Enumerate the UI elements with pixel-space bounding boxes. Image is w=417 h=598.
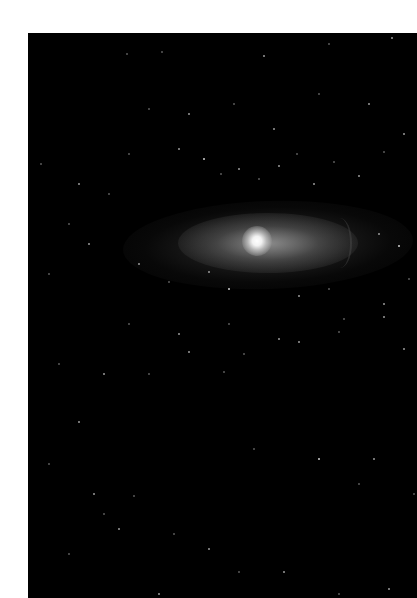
star [328, 288, 330, 290]
star [168, 281, 170, 283]
star [178, 333, 180, 335]
star [48, 463, 50, 465]
star [178, 148, 180, 150]
star [161, 51, 163, 53]
star [233, 103, 235, 105]
star [133, 495, 135, 497]
star [373, 458, 375, 460]
star [118, 528, 120, 530]
star [48, 273, 50, 275]
star [338, 593, 340, 595]
star [238, 571, 240, 573]
star [208, 271, 210, 273]
star [338, 331, 340, 333]
star [258, 178, 260, 180]
star [188, 351, 190, 353]
star [128, 323, 130, 325]
star [243, 353, 245, 355]
star [368, 103, 370, 105]
star [318, 458, 320, 460]
star [298, 295, 300, 297]
star [358, 483, 360, 485]
star [138, 263, 140, 265]
image-frame [0, 0, 417, 598]
star [220, 173, 222, 175]
star [318, 93, 320, 95]
star [333, 161, 335, 163]
star [78, 183, 80, 185]
star [283, 571, 285, 573]
star [298, 341, 300, 343]
star [93, 493, 95, 495]
star [278, 338, 280, 340]
star [158, 593, 160, 595]
star [408, 278, 410, 280]
star [88, 243, 90, 245]
star [68, 553, 70, 555]
star [58, 363, 60, 365]
star [313, 183, 315, 185]
star [328, 43, 330, 45]
star [343, 318, 345, 320]
star [203, 158, 205, 160]
star [391, 37, 393, 39]
star [148, 108, 150, 110]
star [78, 421, 80, 423]
star [378, 233, 380, 235]
star [40, 163, 42, 165]
star [223, 371, 225, 373]
star [413, 493, 415, 495]
star [383, 316, 385, 318]
star [68, 223, 70, 225]
star [228, 288, 230, 290]
star [273, 128, 275, 130]
star [398, 245, 400, 247]
star [148, 373, 150, 375]
star [403, 348, 405, 350]
star [238, 168, 240, 170]
star [358, 175, 360, 177]
star [103, 513, 105, 515]
star [108, 193, 110, 195]
star [296, 153, 298, 155]
star [173, 533, 175, 535]
star [208, 548, 210, 550]
star [403, 133, 405, 135]
star [388, 588, 390, 590]
galaxy-arm-arc [328, 218, 352, 268]
star [103, 373, 105, 375]
star [383, 151, 385, 153]
star [228, 323, 230, 325]
star [253, 448, 255, 450]
star [278, 165, 280, 167]
star [263, 55, 265, 57]
star [383, 303, 385, 305]
star-field [28, 33, 417, 598]
galaxy-core [242, 226, 272, 256]
star [188, 113, 190, 115]
star [128, 153, 130, 155]
star [126, 53, 128, 55]
